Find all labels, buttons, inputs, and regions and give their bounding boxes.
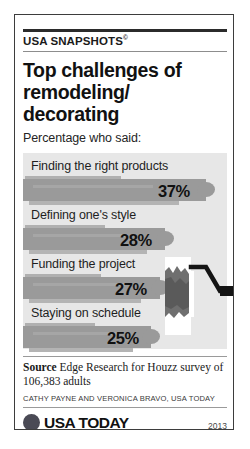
brush-wisp [29,299,141,303]
bar-value: 28% [120,231,152,250]
subtitle: Percentage who said: [23,131,227,145]
brush-streak [33,283,125,286]
chart-panel: Finding the right products 37% Defining … [23,153,227,349]
footer-rule [23,407,227,408]
bar-label: Funding the project [31,257,135,271]
brush-streak [33,185,153,188]
usa-today-logo-text: USA TODAY [44,414,129,430]
byline: CATHY PAYNE AND VERONICA BRAVO, USA TODA… [23,394,227,403]
copyright-icon: © [123,34,128,41]
page-title: Top challenges of remodeling/ decorating [23,59,227,125]
brush-wisp [25,274,101,277]
usa-today-logo: USA TODAY [23,413,153,430]
brush-wisp [29,348,133,352]
header-bottom-rule [23,51,227,52]
brush-streak [33,234,128,237]
brush-wisp [25,176,121,179]
source-note: Source Edge Research for Houzz survey of… [23,361,227,388]
bar-value: 37% [158,182,190,201]
paint-roller-icon [165,257,234,335]
brush-wisp [25,323,95,326]
bar-label: Finding the right products [31,159,168,173]
bar-value: 27% [115,280,147,299]
snapshots-brand-text: USA SNAPSHOTS [23,35,123,47]
snapshots-brand: USA SNAPSHOTS© [23,34,227,47]
globe-icon [23,414,40,430]
brush-wisp [25,225,105,228]
header-top-rule [23,29,227,32]
source-rule [23,356,227,357]
card-inner: USA SNAPSHOTS© Top challenges of remodel… [23,15,227,429]
source-label: Source [23,361,57,373]
bar-label: Staying on schedule [31,306,141,320]
brush-wisp [29,250,147,254]
year-label: 2013 [208,421,227,430]
bar-label: Defining one's style [31,208,136,222]
brush-wisp [29,201,179,205]
bar-value: 25% [107,329,139,348]
infographic-card: USA SNAPSHOTS© Top challenges of remodel… [14,14,234,430]
